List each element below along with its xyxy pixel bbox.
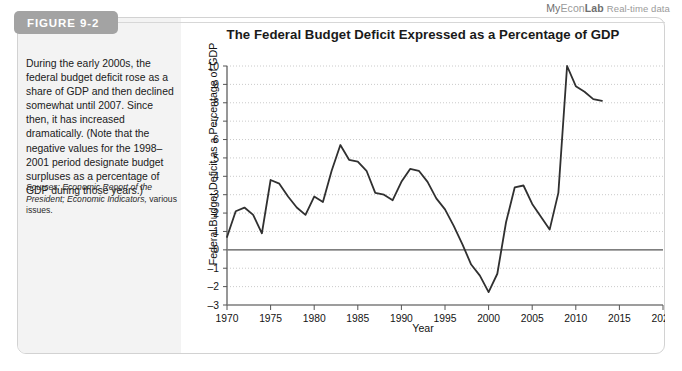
- svg-text:2010: 2010: [564, 313, 587, 324]
- myeconlab-brand: MyEconLab Real-time data: [546, 2, 670, 14]
- sources-label: Sources:: [26, 182, 60, 192]
- x-tick-labels: 1970197519801985199019952000200520102015…: [216, 313, 665, 324]
- svg-text:9: 9: [213, 79, 219, 90]
- figure-caption: During the early 2000s, the federal budg…: [26, 57, 178, 198]
- figure-number-tab: FIGURE 9-2: [14, 11, 118, 34]
- svg-text:–2: –2: [208, 281, 220, 292]
- svg-text:1990: 1990: [390, 313, 413, 324]
- svg-text:1985: 1985: [346, 313, 369, 324]
- brand-lab: Lab: [585, 2, 604, 14]
- svg-text:3: 3: [213, 189, 219, 200]
- y-axis: [223, 66, 227, 305]
- svg-text:0: 0: [213, 244, 219, 255]
- svg-text:2015: 2015: [608, 313, 631, 324]
- svg-text:1995: 1995: [434, 313, 457, 324]
- svg-text:6: 6: [213, 134, 219, 145]
- svg-text:2005: 2005: [521, 313, 544, 324]
- svg-text:2020: 2020: [652, 313, 665, 324]
- data-line: [227, 66, 602, 292]
- figure-screenshot: MyEconLab Real-time data FIGURE 9-2 The …: [0, 0, 682, 371]
- line-chart-svg: –3–2–1012345678910 197019751980198519901…: [181, 40, 665, 340]
- svg-text:10: 10: [208, 61, 220, 72]
- svg-text:2: 2: [213, 208, 219, 219]
- brand-my: My: [546, 2, 560, 14]
- figure-number-label: FIGURE 9-2: [27, 17, 99, 29]
- figure-sources: Sources: Economic Report of the Presiden…: [26, 182, 184, 217]
- x-axis: [227, 305, 663, 310]
- svg-text:8: 8: [213, 97, 219, 108]
- brand-econ: Econ: [560, 2, 584, 14]
- svg-text:1970: 1970: [216, 313, 239, 324]
- svg-text:2000: 2000: [477, 313, 500, 324]
- svg-text:–3: –3: [208, 300, 220, 311]
- svg-text:4: 4: [213, 171, 219, 182]
- svg-text:–1: –1: [208, 263, 220, 274]
- y-tick-labels: –3–2–1012345678910: [208, 61, 220, 311]
- svg-text:7: 7: [213, 116, 219, 127]
- header-rule: [112, 22, 665, 23]
- svg-text:1975: 1975: [259, 313, 282, 324]
- svg-text:5: 5: [213, 153, 219, 164]
- svg-text:1: 1: [213, 226, 219, 237]
- svg-text:1980: 1980: [303, 313, 326, 324]
- brand-realtime-data: Real-time data: [607, 3, 670, 14]
- chart-plot-area: Federal Budget Deficit as a Percentage o…: [181, 40, 665, 340]
- figure-caption-text: During the early 2000s, the federal budg…: [26, 57, 178, 198]
